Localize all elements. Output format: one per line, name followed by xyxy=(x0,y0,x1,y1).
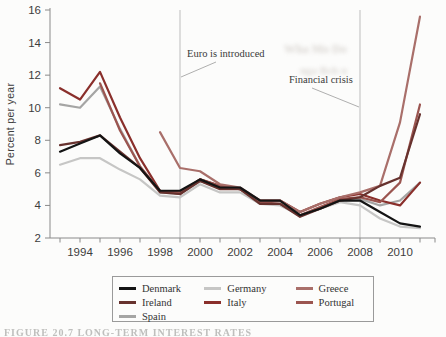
legend-item-ireland: Ireland xyxy=(119,296,204,309)
line-chart-svg: 1994199619982000200220042006200820102468… xyxy=(0,0,446,272)
y-tick-label: 16 xyxy=(28,4,41,16)
legend-item-spain: Spain xyxy=(119,310,204,323)
legend-swatch-italy xyxy=(204,301,221,304)
y-tick-label: 6 xyxy=(35,167,41,179)
annotation-leader-1 xyxy=(312,88,359,107)
x-tick-label: 2000 xyxy=(187,246,213,258)
y-tick-label: 14 xyxy=(28,37,41,49)
legend-label-denmark: Denmark xyxy=(142,283,181,294)
legend-column-1: DenmarkIrelandSpain xyxy=(119,282,204,323)
y-tick-label: 8 xyxy=(35,134,41,146)
x-tick-label: 2010 xyxy=(387,246,413,258)
x-tick-label: 2002 xyxy=(227,246,253,258)
legend-swatch-spain xyxy=(119,315,136,318)
legend-column-3: GreecePortugal xyxy=(296,282,373,309)
y-tick-label: 12 xyxy=(28,69,41,81)
legend-item-germany: Germany xyxy=(204,282,295,295)
legend-label-italy: Italy xyxy=(227,297,246,308)
legend-swatch-germany xyxy=(204,287,221,290)
y-tick-label: 10 xyxy=(28,102,41,114)
x-tick-label: 2004 xyxy=(267,246,293,258)
legend-item-greece: Greece xyxy=(296,282,373,295)
legend-item-denmark: Denmark xyxy=(119,282,204,295)
legend-column-2: GermanyItaly xyxy=(204,282,295,309)
y-tick-label: 2 xyxy=(35,232,41,244)
legend-label-ireland: Ireland xyxy=(142,297,172,308)
legend: DenmarkIrelandSpainGermanyItalyGreecePor… xyxy=(112,276,374,322)
legend-label-portugal: Portugal xyxy=(319,297,355,308)
x-tick-label: 1998 xyxy=(147,246,173,258)
legend-label-spain: Spain xyxy=(142,311,166,322)
legend-swatch-greece xyxy=(296,287,313,290)
figure-caption-faint: FIGURE 20.7 LONG-TERM INTEREST RATES xyxy=(4,327,444,337)
x-tick-label: 2006 xyxy=(307,246,333,258)
y-tick-label: 4 xyxy=(35,199,42,211)
series-line-denmark xyxy=(60,135,420,226)
legend-swatch-ireland xyxy=(119,301,136,304)
x-tick-label: 1996 xyxy=(107,246,133,258)
legend-label-germany: Germany xyxy=(227,283,266,294)
annotation-label-1: Financial crisis xyxy=(289,74,353,85)
x-tick-label: 2008 xyxy=(347,246,373,258)
book-page-figure: Wha Mo Do nga Bch n 19941996199820002002… xyxy=(0,0,446,337)
annotation-leader-0 xyxy=(181,62,216,77)
interest-rate-chart: 1994199619982000200220042006200820102468… xyxy=(0,0,446,272)
x-tick-label: 1994 xyxy=(67,246,93,258)
annotation-label-0: Euro is introduced xyxy=(187,48,265,59)
legend-swatch-denmark xyxy=(119,287,136,290)
legend-item-italy: Italy xyxy=(204,296,295,309)
series-line-portugal xyxy=(100,83,420,215)
legend-label-greece: Greece xyxy=(319,283,349,294)
legend-item-portugal: Portugal xyxy=(296,296,373,309)
y-axis-title: Percent per year xyxy=(4,83,16,166)
legend-swatch-portugal xyxy=(296,301,313,304)
